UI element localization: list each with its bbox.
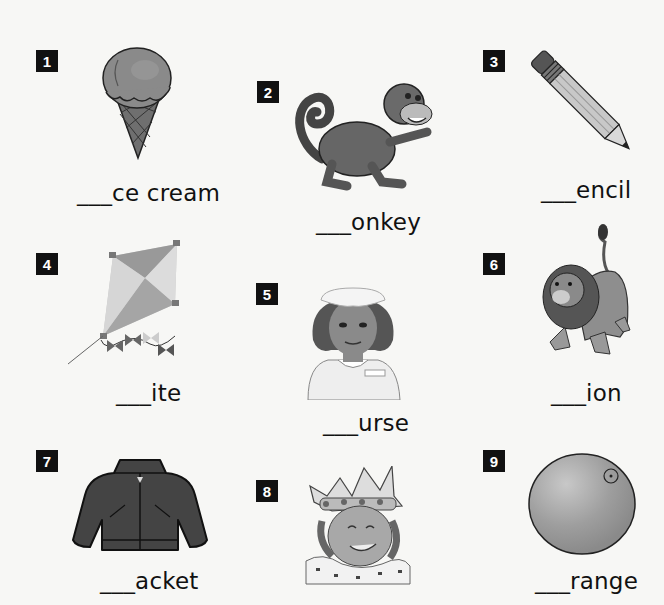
word-label-9: ___range [535,568,638,594]
answer-blank-7[interactable]: ___ [100,568,135,594]
word-suffix-5: urse [358,410,409,436]
word-suffix-2: onkey [351,209,421,235]
item-number-badge-8: 8 [256,480,278,502]
word-label-2: ___onkey [316,209,421,235]
monkey-icon [292,74,442,194]
answer-blank-2[interactable]: ___ [316,209,351,235]
word-suffix-4: ite [151,380,181,406]
word-label-4: ___ite [116,380,181,406]
answer-blank-1[interactable]: ___ [77,180,112,206]
jacket-icon [70,455,210,560]
word-suffix-3: encil [576,177,631,203]
word-suffix-9: range [570,568,638,594]
answer-blank-5[interactable]: ___ [323,410,358,436]
word-label-7: ___acket [100,568,199,594]
answer-blank-4[interactable]: ___ [116,380,151,406]
kite-icon [65,236,190,366]
item-number-badge-6: 6 [483,253,505,275]
item-number-badge-3: 3 [483,50,505,72]
pencil-icon [528,44,638,164]
word-label-3: ___encil [541,177,631,203]
word-suffix-1: ce cream [112,180,220,206]
item-number-badge-7: 7 [36,450,58,472]
item-number-badge-1: 1 [36,50,58,72]
item-number-badge-9: 9 [483,450,505,472]
ice-cream-cone-icon [100,42,175,162]
answer-blank-3[interactable]: ___ [541,177,576,203]
word-suffix-6: ion [586,380,622,406]
queen-icon [302,466,412,586]
answer-blank-9[interactable]: ___ [535,568,570,594]
word-suffix-7: acket [135,568,198,594]
word-label-6: ___ion [551,380,622,406]
item-number-badge-5: 5 [256,283,278,305]
answer-blank-6[interactable]: ___ [551,380,586,406]
lion-icon [535,222,645,367]
item-number-badge-4: 4 [36,253,58,275]
item-number-badge-2: 2 [257,81,279,103]
nurse-icon [303,270,403,400]
word-label-5: ___urse [323,410,409,436]
word-label-1: ___ce cream [77,180,220,206]
orange-icon [525,449,640,559]
